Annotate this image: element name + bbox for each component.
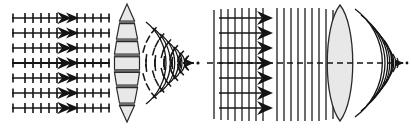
lens-segment bbox=[115, 57, 140, 70]
left-converging-wavefronts bbox=[143, 22, 200, 104]
ray-arrow bbox=[12, 72, 110, 84]
right-diagram-svg bbox=[205, 0, 411, 129]
figure-root bbox=[0, 0, 411, 129]
ray-arrow bbox=[219, 26, 273, 40]
ray-arrow bbox=[219, 41, 273, 55]
lens-segment bbox=[115, 42, 140, 54]
lens-segment bbox=[120, 4, 135, 21]
ray-arrow bbox=[219, 101, 273, 115]
ray-arrow bbox=[12, 57, 110, 70]
plane-wavefront-lines bbox=[214, 8, 333, 121]
lens-segment bbox=[117, 24, 138, 39]
ray-arrow bbox=[12, 27, 110, 39]
segmented-lens bbox=[114, 4, 140, 122]
ray-arrow bbox=[219, 71, 273, 85]
axis-end-dot bbox=[406, 62, 409, 65]
panel-wavefront-lens bbox=[205, 0, 411, 129]
lens-segment bbox=[120, 106, 135, 122]
ray-arrow bbox=[12, 87, 110, 99]
axis-arrowhead bbox=[395, 59, 404, 66]
focal-point-arrow bbox=[183, 58, 200, 68]
optical-axis bbox=[207, 59, 408, 66]
lens-segment bbox=[117, 88, 138, 103]
wavefront-arc-set bbox=[146, 22, 185, 104]
ray-arrow bbox=[219, 86, 273, 100]
ray-arrow bbox=[12, 42, 110, 54]
left-diagram-svg bbox=[0, 0, 206, 129]
ray-arrow bbox=[12, 102, 110, 114]
lens-segment bbox=[115, 72, 140, 85]
ray-arrow bbox=[219, 11, 273, 25]
ray-arrow bbox=[12, 12, 110, 24]
left-incoming-rays bbox=[12, 12, 110, 114]
panel-segmented-lens-ray bbox=[0, 0, 206, 129]
